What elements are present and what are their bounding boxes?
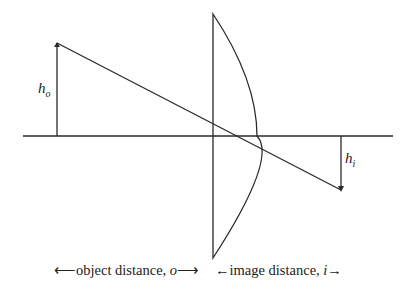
object-distance-caption: ⟵object distance, o⟶: [54, 262, 199, 279]
image-distance-caption: ←image distance, i→: [215, 262, 342, 279]
object-height-label: ho: [38, 80, 51, 99]
ray-diagram: [0, 0, 413, 293]
image-height-label: hi: [345, 150, 355, 169]
principal-ray: [57, 43, 341, 190]
